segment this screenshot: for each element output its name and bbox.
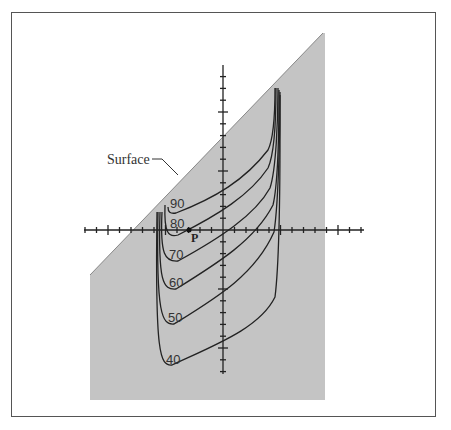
contour-label-80: 80	[170, 216, 184, 231]
subsurface-region	[90, 33, 325, 400]
contour-diagram: 90 80 70 60 50 40 P Surface	[0, 0, 451, 430]
contour-label-50: 50	[168, 310, 182, 325]
surface-leader	[152, 159, 178, 175]
contour-label-90: 90	[170, 196, 184, 211]
contour-label-40: 40	[166, 352, 180, 367]
contour-label-60: 60	[169, 275, 183, 290]
contour-label-70: 70	[169, 247, 183, 262]
surface-label: Surface	[107, 152, 150, 167]
point-p-label: P	[191, 231, 198, 245]
